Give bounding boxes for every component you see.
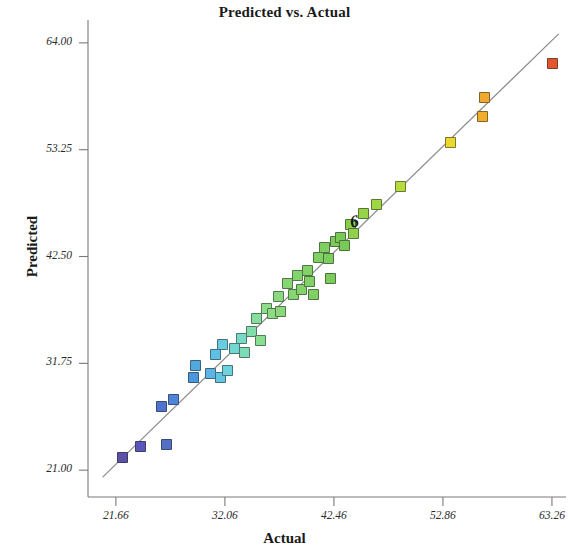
data-point — [302, 265, 313, 276]
data-point — [236, 333, 247, 344]
data-point — [156, 401, 167, 412]
plot-svg — [0, 0, 569, 552]
data-point — [308, 289, 319, 300]
data-point — [323, 253, 334, 264]
data-point — [358, 208, 369, 219]
data-point — [339, 240, 350, 251]
data-point — [445, 137, 456, 148]
data-point — [547, 58, 558, 69]
data-point — [222, 365, 233, 376]
data-point — [325, 273, 336, 284]
y-axis-ticks — [79, 43, 88, 470]
x-tick-label: 52.86 — [403, 509, 483, 521]
x-axis-ticks — [116, 497, 552, 506]
data-point — [168, 394, 179, 405]
y-tick-label: 42.50 — [10, 249, 72, 261]
y-tick-label: 53.25 — [10, 142, 72, 154]
y-tick-label: 31.75 — [10, 355, 72, 367]
x-tick-label: 21.66 — [76, 509, 156, 521]
data-point — [395, 181, 406, 192]
data-point — [190, 360, 201, 371]
data-point — [239, 347, 250, 358]
data-point — [371, 199, 382, 210]
data-point — [188, 372, 199, 383]
data-point — [477, 111, 488, 122]
y-tick-label: 21.00 — [10, 462, 72, 474]
data-point — [479, 92, 490, 103]
y-tick-label: 64.00 — [10, 35, 72, 47]
data-point — [282, 278, 293, 289]
data-point — [273, 291, 284, 302]
data-point — [319, 242, 330, 253]
data-point — [255, 335, 266, 346]
x-tick-label: 42.46 — [294, 509, 374, 521]
data-point — [210, 349, 221, 360]
data-point — [251, 313, 262, 324]
x-tick-label: 63.26 — [512, 509, 569, 521]
chart-container: Predicted vs. Actual Predicted Actual 64… — [0, 0, 569, 552]
data-point — [304, 276, 315, 287]
data-point — [161, 439, 172, 450]
x-tick-label: 32.06 — [185, 509, 265, 521]
data-point — [217, 339, 228, 350]
data-point — [117, 452, 128, 463]
data-point — [275, 306, 286, 317]
data-point — [135, 441, 146, 452]
